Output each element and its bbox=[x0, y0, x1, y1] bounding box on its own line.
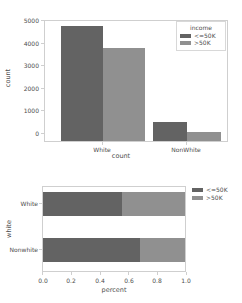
bottom-chart-xtick-08: 0.8 bbox=[145, 277, 169, 284]
top-chart-ytick-3000: 3000 bbox=[12, 62, 39, 69]
bottom-chart-plot-area bbox=[42, 186, 186, 272]
legend-swatch-le50k bbox=[192, 188, 203, 192]
stacked-bar-nonwhite-gt50k[interactable] bbox=[140, 238, 187, 262]
top-chart-ytick-1000: 1000 bbox=[12, 107, 39, 114]
stacked-bar-white-le50k[interactable] bbox=[43, 192, 122, 216]
bottom-chart-xtick-02: 0.2 bbox=[59, 277, 83, 284]
bottom-chart-x-axis-title: percent bbox=[94, 286, 134, 294]
bar-white-gt50k[interactable] bbox=[103, 48, 145, 141]
top-chart-ytick-0: 0 bbox=[12, 130, 39, 137]
bottom-chart-xtick-06: 0.6 bbox=[117, 277, 141, 284]
bar-white-le50k[interactable] bbox=[61, 26, 103, 141]
bottom-chart-xtick-10: 1.0 bbox=[174, 277, 198, 284]
bottom-chart-xtickmark-10 bbox=[186, 272, 187, 275]
bottom-chart-y-axis-title: white bbox=[5, 214, 13, 244]
bottom-chart-legend[interactable]: <=50K >50K bbox=[192, 187, 240, 203]
bottom-chart-xtick-0: 0.0 bbox=[31, 277, 55, 284]
legend-label-gt50k: >50K bbox=[194, 40, 211, 46]
legend-label-gt50k: >50K bbox=[206, 195, 223, 201]
legend-entry-gt50k[interactable]: >50K bbox=[192, 195, 240, 201]
bottom-chart-ytick-white: White bbox=[4, 200, 38, 207]
legend-swatch-gt50k bbox=[180, 41, 191, 45]
bottom-chart-xtickmark-04 bbox=[100, 272, 101, 275]
bottom-chart-xtickmark-06 bbox=[128, 272, 129, 275]
bottom-chart-xtickmark-0 bbox=[42, 272, 43, 275]
legend-entry-gt50k[interactable]: >50K bbox=[180, 40, 222, 46]
top-chart-xtickmark-white bbox=[102, 142, 103, 145]
legend-entry-le50k[interactable]: <=50K bbox=[192, 187, 240, 193]
percent-stacked-bar-chart-panel: white White Nonwhite 0.0 0.2 0.4 0.6 0.8… bbox=[0, 160, 242, 303]
top-chart-ytick-5000: 5000 bbox=[12, 17, 39, 24]
legend-title: income bbox=[180, 24, 222, 31]
bar-nonwhite-le50k[interactable] bbox=[153, 122, 187, 141]
figure: count 5000 4000 3000 2000 1000 0 White N… bbox=[0, 0, 242, 303]
top-chart-x-axis-title: count bbox=[106, 152, 136, 160]
top-chart-ytick-4000: 4000 bbox=[12, 40, 39, 47]
top-chart-xtick-nonwhite: NonWhite bbox=[160, 146, 212, 153]
top-chart-xtickmark-nonwhite bbox=[186, 142, 187, 145]
legend-label-le50k: <=50K bbox=[206, 187, 228, 193]
stacked-bar-white-gt50k[interactable] bbox=[122, 192, 186, 216]
legend-swatch-gt50k bbox=[192, 196, 203, 200]
bottom-chart-xtickmark-08 bbox=[157, 272, 158, 275]
legend-swatch-le50k bbox=[180, 34, 191, 38]
bottom-chart-xtickmark-02 bbox=[71, 272, 72, 275]
top-chart-ytick-2000: 2000 bbox=[12, 85, 39, 92]
bottom-chart-ytick-nonwhite: Nonwhite bbox=[0, 246, 38, 253]
count-bar-chart-panel: count 5000 4000 3000 2000 1000 0 White N… bbox=[0, 0, 242, 160]
stacked-bar-nonwhite-le50k[interactable] bbox=[43, 238, 140, 262]
top-chart-y-axis-title: count bbox=[4, 61, 12, 95]
bar-nonwhite-gt50k[interactable] bbox=[187, 132, 221, 141]
bottom-chart-xtick-04: 0.4 bbox=[88, 277, 112, 284]
top-chart-legend[interactable]: income <=50K >50K bbox=[176, 21, 226, 51]
